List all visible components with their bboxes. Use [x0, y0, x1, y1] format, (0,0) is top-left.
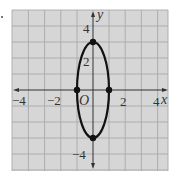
ellipse-chart: y x O −4 −2 2 4 4 2 −4 — [0, 0, 175, 179]
point-bottom — [90, 135, 96, 141]
origin-label: O — [79, 93, 89, 108]
x-axis-label: x — [160, 92, 168, 107]
point-right — [106, 87, 112, 93]
x-tick-neg4: −4 — [12, 93, 26, 108]
x-tick-neg2: −2 — [47, 93, 61, 108]
x-tick-pos4: 4 — [153, 94, 160, 109]
x-tick-pos2: 2 — [120, 94, 127, 109]
point-top — [90, 39, 96, 45]
y-tick-pos2: 2 — [83, 54, 90, 69]
y-axis-label: y — [95, 7, 104, 22]
y-tick-neg4: −4 — [72, 147, 86, 162]
y-tick-pos4: 4 — [83, 21, 90, 36]
